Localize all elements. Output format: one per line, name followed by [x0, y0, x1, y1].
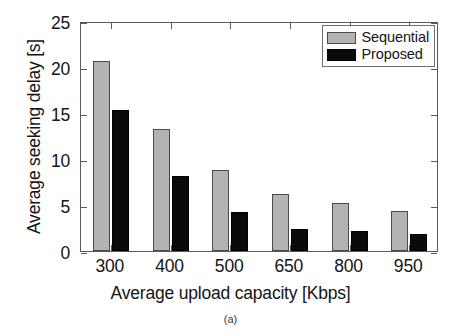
x-tick-mark-800 [350, 245, 351, 251]
y-tick-mark-right-20 [431, 69, 437, 70]
x-tick-mark-500 [230, 245, 231, 251]
bar-sequential-300 [93, 61, 110, 251]
x-tick-mark-top-500 [230, 23, 231, 29]
bar-proposed-950 [410, 234, 427, 251]
x-tick-mark-650 [290, 245, 291, 251]
legend-label-proposed: Proposed [361, 47, 422, 62]
x-tick-label-300: 300 [80, 256, 140, 277]
legend-label-sequential: Sequential [361, 30, 429, 45]
x-axis-title: Average upload capacity [Kbps] [0, 283, 461, 304]
y-tick-mark-20 [81, 69, 87, 70]
bar-proposed-650 [291, 229, 308, 251]
bar-proposed-800 [351, 231, 368, 251]
x-tick-label-950: 950 [378, 256, 438, 277]
x-tick-label-650: 650 [259, 256, 319, 277]
x-tick-mark-400 [171, 245, 172, 251]
legend-swatch-proposed [327, 49, 356, 61]
x-tick-mark-top-300 [111, 23, 112, 29]
y-tick-mark-0 [81, 253, 87, 254]
bar-sequential-400 [153, 129, 170, 251]
y-axis-title: Average seeking delay [s] [24, 17, 45, 257]
bar-sequential-800 [332, 203, 349, 251]
y-tick-mark-15 [81, 115, 87, 116]
x-tick-mark-top-650 [290, 23, 291, 29]
x-tick-mark-300 [111, 245, 112, 251]
bar-sequential-500 [212, 170, 229, 251]
plot-area: Sequential Proposed [80, 22, 438, 252]
y-tick-mark-5 [81, 207, 87, 208]
x-tick-label-800: 800 [319, 256, 379, 277]
y-tick-mark-right-5 [431, 207, 437, 208]
legend-item-sequential: Sequential [327, 29, 429, 46]
x-tick-mark-950 [409, 245, 410, 251]
bar-proposed-500 [231, 212, 248, 251]
figure-subcaption: (a) [0, 313, 461, 325]
chart-legend: Sequential Proposed [322, 25, 435, 67]
y-tick-mark-right-15 [431, 115, 437, 116]
legend-swatch-sequential [327, 32, 356, 44]
bar-proposed-400 [172, 176, 189, 251]
x-tick-label-500: 500 [199, 256, 259, 277]
y-tick-mark-25 [81, 23, 87, 24]
figure-panel: Sequential Proposed 0510152025 300400500… [0, 0, 461, 336]
y-tick-mark-right-25 [431, 23, 437, 24]
y-tick-mark-10 [81, 161, 87, 162]
bar-sequential-950 [391, 211, 408, 251]
x-tick-label-400: 400 [140, 256, 200, 277]
x-tick-mark-top-400 [171, 23, 172, 29]
y-tick-mark-right-0 [431, 253, 437, 254]
bar-sequential-650 [272, 194, 289, 251]
y-tick-mark-right-10 [431, 161, 437, 162]
bar-proposed-300 [112, 110, 129, 251]
legend-item-proposed: Proposed [327, 46, 429, 63]
